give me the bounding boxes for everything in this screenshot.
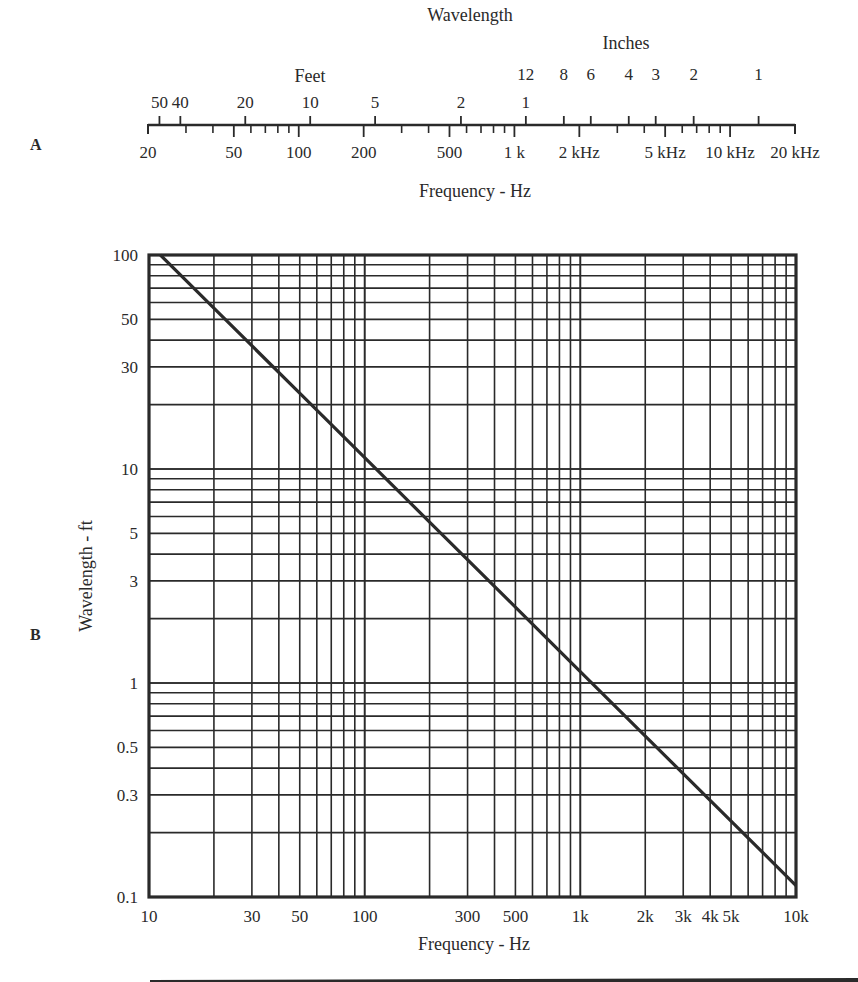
feet-tick-label: 2: [457, 93, 466, 112]
x-tick-label: 5k: [723, 907, 741, 926]
inches-tick-label: 6: [587, 65, 596, 84]
x-tick-label: 30: [243, 907, 260, 926]
x-tick-label: 10: [141, 907, 158, 926]
feet-tick-label: 50: [151, 93, 168, 112]
frequency-tick-label: 100: [286, 143, 312, 162]
axis-tick-labels: 1030501003005001k2k3k4k5k10k100503010531…: [113, 246, 810, 926]
frequency-tick-label: 10 kHz: [705, 143, 755, 162]
frequency-tick-label: 2 kHz: [559, 143, 601, 162]
inches-tick-label: 4: [625, 65, 634, 84]
inches-label: Inches: [603, 33, 650, 53]
x-tick-label: 10k: [783, 907, 809, 926]
y-tick-label: 30: [121, 358, 138, 377]
frequency-tick-label: 20: [140, 143, 157, 162]
frequency-tick-label: 200: [351, 143, 377, 162]
figure: A Wavelength Inches Feet Frequency - Hz …: [0, 0, 858, 982]
frequency-tick-label: 1 k: [504, 143, 526, 162]
x-tick-label: 50: [291, 907, 308, 926]
y-tick-label: 100: [113, 246, 139, 265]
x-tick-label: 1k: [572, 907, 590, 926]
y-tick-label: 0.3: [117, 786, 138, 805]
frequency-tick-label: 5 kHz: [645, 143, 687, 162]
y-tick-label: 1: [130, 674, 139, 693]
panel-a-frequency-label: Frequency - Hz: [419, 181, 531, 201]
wavelength-line: [160, 255, 796, 886]
x-tick-label: 100: [352, 907, 378, 926]
y-tick-label: 0.5: [117, 738, 138, 757]
y-tick-label: 3: [130, 572, 139, 591]
y-tick-label: 5: [130, 524, 139, 543]
nomograph-scale: 20501002005001 k2 kHz5 kHz10 kHz20 kHz50…: [140, 65, 821, 162]
inches-tick-label: 3: [651, 65, 660, 84]
y-axis-title: Wavelength - ft: [76, 520, 96, 632]
panel-a-label: A: [30, 136, 42, 153]
feet-tick-label: 10: [302, 93, 319, 112]
x-tick-label: 2k: [637, 907, 655, 926]
feet-label: Feet: [295, 66, 326, 86]
inches-tick-label: 1: [754, 65, 763, 84]
inches-tick-label: 8: [560, 65, 569, 84]
x-tick-label: 3k: [675, 907, 693, 926]
frequency-tick-label: 50: [225, 143, 242, 162]
panel-a-title: Wavelength: [427, 5, 513, 25]
x-tick-label: 500: [503, 907, 529, 926]
feet-tick-label: 40: [172, 93, 189, 112]
frequency-tick-label: 500: [437, 143, 463, 162]
y-tick-label: 50: [121, 310, 138, 329]
plot-grid: [149, 255, 796, 897]
inches-tick-label: 12: [517, 65, 534, 84]
y-tick-label: 10: [121, 460, 138, 479]
x-tick-label: 300: [455, 907, 481, 926]
y-tick-label: 0.1: [117, 888, 138, 907]
x-tick-label: 4k: [702, 907, 720, 926]
panel-b-label: B: [30, 626, 41, 643]
feet-tick-label: 1: [522, 93, 531, 112]
frequency-tick-label: 20 kHz: [770, 143, 820, 162]
plot-frame: [149, 255, 796, 897]
feet-tick-label: 20: [237, 93, 254, 112]
feet-tick-label: 5: [371, 93, 380, 112]
x-axis-title: Frequency - Hz: [418, 934, 530, 954]
inches-tick-label: 2: [689, 65, 698, 84]
